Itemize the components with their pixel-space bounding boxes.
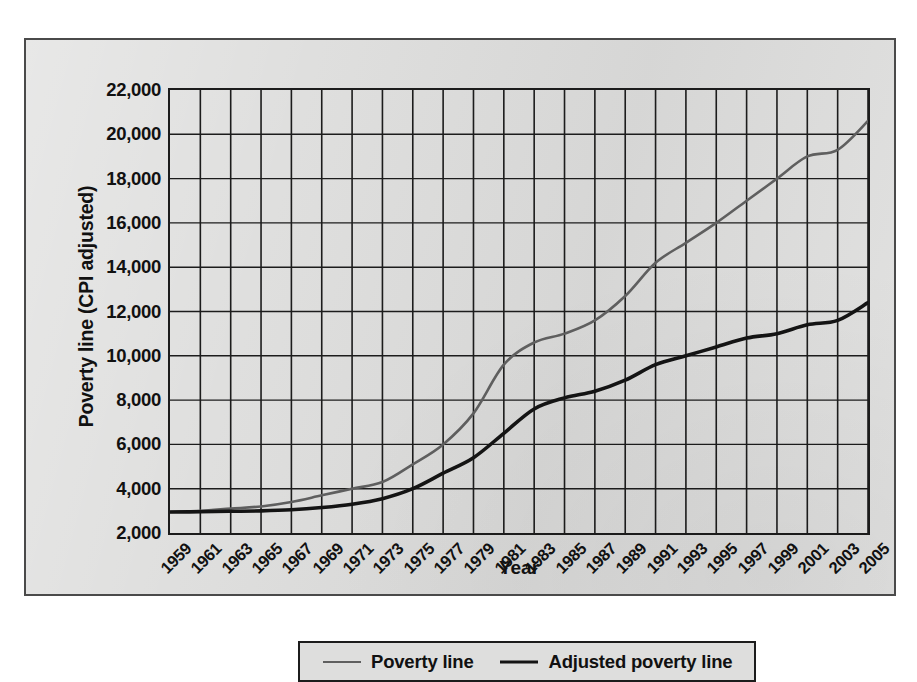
legend-line-swatch (499, 656, 539, 668)
legend-line-swatch (322, 656, 362, 668)
y-tick-label: 2,000 (116, 522, 161, 544)
y-tick-label: 22,000 (106, 79, 161, 101)
legend-label: Adjusted poverty line (548, 651, 732, 673)
y-tick-label: 18,000 (106, 168, 161, 190)
data-series-lines (170, 121, 868, 512)
series-line (170, 121, 868, 512)
series-line (170, 303, 868, 512)
y-tick-label: 20,000 (106, 123, 161, 145)
legend-item: Adjusted poverty line (499, 651, 732, 673)
legend-item: Poverty line (322, 651, 473, 673)
y-tick-label: 16,000 (106, 212, 161, 234)
y-tick-label: 8,000 (116, 389, 161, 411)
plot-svg (170, 90, 868, 533)
chart-panel: Poverty line (CPI adjusted) 2,0004,0006,… (24, 38, 896, 596)
y-tick-label: 4,000 (116, 478, 161, 500)
y-tick-label: 6,000 (116, 433, 161, 455)
y-tick-label: 10,000 (106, 345, 161, 367)
y-axis-title: Poverty line (CPI adjusted) (75, 97, 98, 517)
y-tick-label: 14,000 (106, 256, 161, 278)
plot-area: 2,0004,0006,0008,00010,00012,00014,00016… (168, 88, 870, 535)
legend: Poverty lineAdjusted poverty line (298, 641, 756, 682)
legend-label: Poverty line (371, 651, 473, 673)
x-axis-title: Year (168, 557, 870, 579)
y-tick-label: 12,000 (106, 301, 161, 323)
